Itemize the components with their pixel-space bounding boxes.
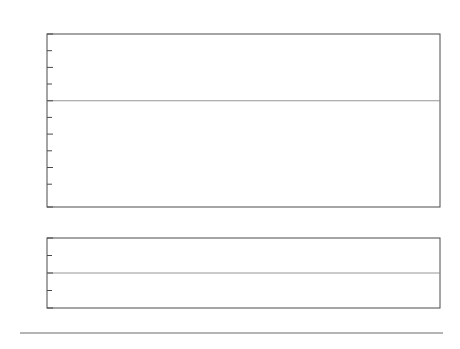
dual-panel-line-chart bbox=[0, 0, 460, 349]
chart-background bbox=[0, 0, 460, 349]
chart-figure bbox=[0, 0, 460, 349]
